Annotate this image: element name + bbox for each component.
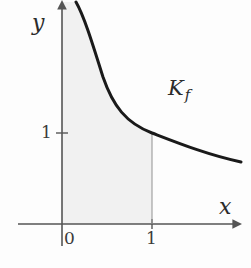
curve-label-main: K bbox=[168, 76, 184, 100]
shaded-area-under-curve bbox=[62, 2, 152, 224]
x-axis-label: x bbox=[219, 196, 231, 218]
y-axis-label: y bbox=[32, 12, 44, 34]
y-tick-label-1: 1 bbox=[41, 124, 52, 141]
plot-canvas bbox=[0, 0, 251, 268]
curve-label-subscript: f bbox=[184, 86, 191, 104]
curve-label: Kf bbox=[168, 78, 190, 103]
figure-container: y x Kf 0 1 1 bbox=[0, 0, 251, 268]
x-tick-label-1: 1 bbox=[146, 230, 157, 247]
origin-tick-label: 0 bbox=[64, 230, 75, 247]
